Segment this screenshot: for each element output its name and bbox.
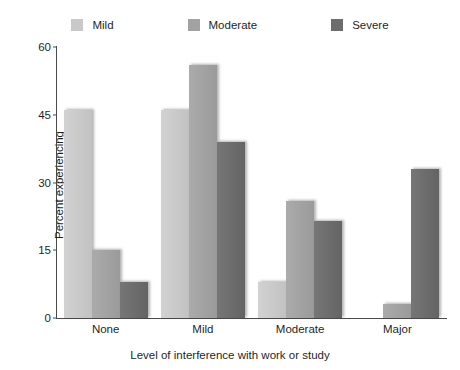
x-axis-line bbox=[56, 318, 447, 319]
bar-group bbox=[252, 47, 349, 318]
x-tick-label: Mild bbox=[192, 323, 213, 335]
y-tick-label: 15 bbox=[38, 245, 51, 256]
bar-group bbox=[349, 47, 446, 318]
bar-set bbox=[161, 47, 245, 318]
bar-mild-moderate[interactable] bbox=[189, 65, 217, 318]
legend-item-severe: Severe bbox=[331, 19, 388, 31]
legend-swatch-mild bbox=[71, 19, 83, 31]
bar-mild-severe[interactable] bbox=[217, 142, 245, 318]
legend-label-severe: Severe bbox=[352, 19, 388, 31]
bar-mild-mild[interactable] bbox=[161, 110, 189, 318]
bar-major-moderate[interactable] bbox=[383, 304, 411, 318]
bar-moderate-moderate[interactable] bbox=[286, 201, 314, 318]
chart-legend: Mild Moderate Severe bbox=[0, 14, 460, 36]
legend-swatch-moderate bbox=[188, 19, 200, 31]
bar-none-moderate[interactable] bbox=[92, 250, 120, 318]
x-tick-label: Moderate bbox=[276, 323, 325, 335]
bar-group bbox=[57, 47, 154, 318]
legend-item-moderate: Moderate bbox=[188, 19, 258, 31]
legend-label-mild: Mild bbox=[92, 19, 113, 31]
y-tick-label: 0 bbox=[45, 313, 51, 324]
x-axis-label: Level of interference with work or study bbox=[0, 349, 460, 361]
legend-swatch-severe bbox=[331, 19, 343, 31]
bar-set bbox=[355, 47, 439, 318]
bar-group bbox=[154, 47, 251, 318]
bar-major-severe[interactable] bbox=[411, 169, 439, 318]
plot-area: 015304560 bbox=[57, 47, 446, 318]
bar-set bbox=[258, 47, 342, 318]
legend-label-moderate: Moderate bbox=[209, 19, 258, 31]
y-tick-label: 30 bbox=[38, 177, 51, 188]
legend-item-mild: Mild bbox=[71, 19, 113, 31]
y-tick-label: 45 bbox=[38, 109, 51, 120]
bar-moderate-severe[interactable] bbox=[314, 221, 342, 318]
bar-chart: Mild Moderate Severe Percent experiencin… bbox=[0, 0, 460, 370]
bar-groups bbox=[57, 47, 446, 318]
y-tick-label: 60 bbox=[38, 42, 51, 53]
x-tick-label: Major bbox=[383, 323, 412, 335]
bar-moderate-mild[interactable] bbox=[258, 282, 286, 318]
bar-none-mild[interactable] bbox=[64, 110, 92, 318]
bar-none-severe[interactable] bbox=[120, 282, 148, 318]
x-tick-label: None bbox=[92, 323, 120, 335]
bar-set bbox=[64, 47, 148, 318]
